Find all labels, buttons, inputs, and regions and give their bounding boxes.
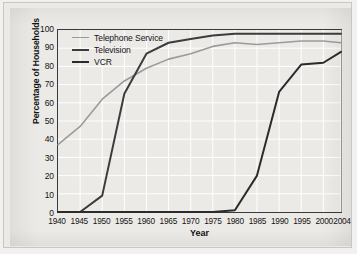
y-tick-label: 30 [32,153,54,162]
x-axis-tick-labels: 1940194519501955196019651970197519801985… [57,216,342,228]
y-tick-label: 60 [32,98,54,107]
legend-item: VCR [72,56,192,67]
legend-item: Television [72,44,192,55]
legend: Telephone ServiceTelevisionVCR [72,32,192,68]
y-tick-label: 70 [32,80,54,89]
x-axis-title: Year [57,228,342,238]
y-tick-label: 80 [32,61,54,70]
y-tick-label: 100 [32,25,54,34]
y-tick-label: 40 [32,135,54,144]
legend-swatch-line-icon [72,49,89,51]
y-axis-tick-labels: 0102030405060708090100 [29,29,54,213]
x-tick-label: 2004 [326,216,357,226]
y-tick-label: 20 [32,172,54,181]
legend-swatch-line-icon [72,37,89,38]
y-tick-label: 50 [32,117,54,126]
paper-sheet: Percentage of Households 010203040506070… [3,2,352,248]
y-tick-label: 10 [32,190,54,199]
legend-item-label: Television [94,45,131,55]
series-line [58,52,341,212]
chart-screenshot: Percentage of Households 010203040506070… [0,0,357,254]
legend-item-label: VCR [94,57,112,67]
legend-item-label: Telephone Service [94,33,163,43]
y-tick-label: 90 [32,43,54,52]
legend-swatch-line-icon [72,61,89,63]
legend-item: Telephone Service [72,32,192,43]
figure: Percentage of Households 010203040506070… [10,8,351,246]
